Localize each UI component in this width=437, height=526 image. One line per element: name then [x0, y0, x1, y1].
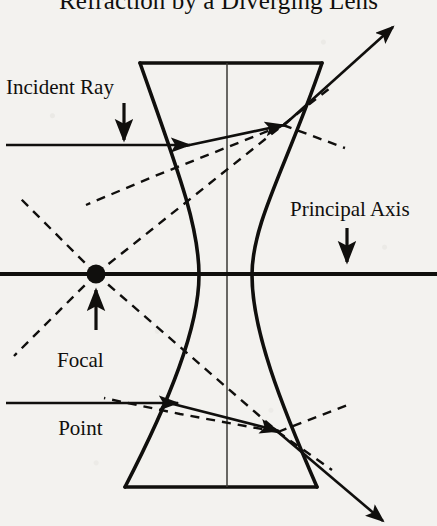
upper-internal-ray	[185, 125, 284, 146]
focal-point-label-line2: Point	[57, 417, 104, 440]
focal-point-label-line1: Focal	[57, 349, 104, 372]
focal-point-dot	[87, 265, 106, 284]
diagram-canvas: Refraction by a Diverging Lens Incident …	[0, 0, 437, 526]
upper-refracted-ray	[283, 27, 393, 126]
lower-refracted-ray	[278, 432, 383, 521]
dashed-focal-upper-left	[18, 196, 96, 274]
principal-axis-label: Principal Axis	[290, 198, 410, 221]
diagram-title: Refraction by a Diverging Lens	[59, 0, 378, 14]
incident-ray-label: Incident Ray	[6, 76, 114, 99]
lower-internal-ray	[173, 404, 279, 431]
focal-point-label: Focal Point	[57, 304, 104, 485]
